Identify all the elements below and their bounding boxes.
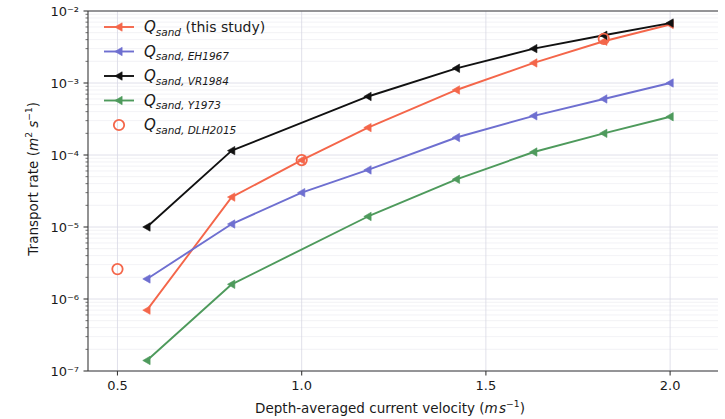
y-tick-label: 10⁻⁵	[50, 220, 79, 235]
x-tick-label: 1.5	[476, 378, 497, 393]
plot-background	[88, 11, 718, 371]
y-tick-label: 10⁻²	[50, 4, 79, 19]
y-tick-label: 10⁻³	[50, 76, 79, 91]
y-tick-label: 10⁻⁴	[50, 148, 79, 163]
x-axis-label: Depth-averaged current velocity (m s−1)	[110, 398, 670, 416]
y-tick-label: 10⁻⁷	[50, 364, 79, 379]
x-tick-label: 1.0	[291, 378, 312, 393]
line-chart-svg: 10⁻²10⁻³10⁻⁴10⁻⁵10⁻⁶10⁻⁷0.51.01.52.0Qsan…	[0, 0, 725, 419]
y-axis-label: Transport rate (m2 s−1)	[23, 69, 41, 289]
figure-root: 10⁻²10⁻³10⁻⁴10⁻⁵10⁻⁶10⁻⁷0.51.01.52.0Qsan…	[0, 0, 725, 419]
y-tick-label: 10⁻⁶	[50, 292, 79, 307]
chart-canvas: 10⁻²10⁻³10⁻⁴10⁻⁵10⁻⁶10⁻⁷0.51.01.52.0Qsan…	[0, 0, 725, 419]
x-tick-label: 2.0	[660, 378, 681, 393]
x-tick-label: 0.5	[107, 378, 128, 393]
